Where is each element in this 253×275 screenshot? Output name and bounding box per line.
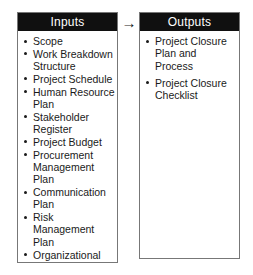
input-list-item: Project Budget xyxy=(20,136,115,148)
input-list-item: Work Breakdown Structure xyxy=(20,48,115,73)
bullet-icon xyxy=(24,191,27,194)
input-list-item-label: Project Budget xyxy=(33,136,102,148)
input-list-item: Stakeholder Register xyxy=(20,111,115,136)
bullet-icon xyxy=(24,77,27,80)
output-list-item: Project Closure Plan and Process xyxy=(142,35,237,72)
input-list-item-label: Organizational Processes xyxy=(33,249,101,262)
input-list-item-label: Scope xyxy=(33,35,63,47)
bullet-icon xyxy=(24,90,27,93)
input-list-item-label: Human Resource Plan xyxy=(33,86,115,110)
input-list-item-label: Risk Management Plan xyxy=(33,211,94,248)
inputs-panel-body: ScopeWork Breakdown StructureProject Sch… xyxy=(18,31,117,262)
bullet-icon xyxy=(24,40,27,43)
inputs-panel-title: Inputs xyxy=(18,13,117,31)
input-list-item-label: Project Schedule xyxy=(33,73,112,85)
inputs-panel: Inputs ScopeWork Breakdown StructureProj… xyxy=(17,12,118,263)
input-list-item-label: Communication Plan xyxy=(33,186,106,210)
input-list-item: Organizational Processes xyxy=(20,249,115,262)
bullet-icon xyxy=(146,81,149,84)
bullet-icon xyxy=(24,140,27,143)
input-list-item: Communication Plan xyxy=(20,186,115,211)
output-list-item: Project Closure Checklist xyxy=(142,77,237,102)
input-list-item: Procurement Management Plan xyxy=(20,149,115,186)
output-list-item-label: Project Closure Plan and Process xyxy=(155,35,227,72)
outputs-panel-body: Project Closure Plan and ProcessProject … xyxy=(140,31,239,258)
bullet-icon xyxy=(24,115,27,118)
bullet-icon xyxy=(24,52,27,55)
input-list-item: Scope xyxy=(20,35,115,47)
bullet-icon xyxy=(146,40,149,43)
input-list-item-label: Work Breakdown Structure xyxy=(33,48,113,72)
output-list-item-label: Project Closure Checklist xyxy=(155,77,227,101)
bullet-icon xyxy=(24,216,27,219)
outputs-panel: Outputs Project Closure Plan and Process… xyxy=(139,12,240,259)
arrow-right-icon: → xyxy=(119,12,139,32)
input-list-item: Project Schedule xyxy=(20,73,115,85)
bullet-icon xyxy=(24,153,27,156)
input-list-item-label: Stakeholder Register xyxy=(33,111,89,135)
input-list-item: Risk Management Plan xyxy=(20,211,115,248)
outputs-item-list: Project Closure Plan and ProcessProject … xyxy=(142,35,237,101)
inputs-outputs-diagram: Inputs ScopeWork Breakdown StructureProj… xyxy=(0,0,253,275)
inputs-item-list: ScopeWork Breakdown StructureProject Sch… xyxy=(20,35,115,262)
input-list-item: Human Resource Plan xyxy=(20,86,115,111)
bullet-icon xyxy=(24,253,27,256)
outputs-panel-title: Outputs xyxy=(140,13,239,31)
input-list-item-label: Procurement Management Plan xyxy=(33,149,94,186)
